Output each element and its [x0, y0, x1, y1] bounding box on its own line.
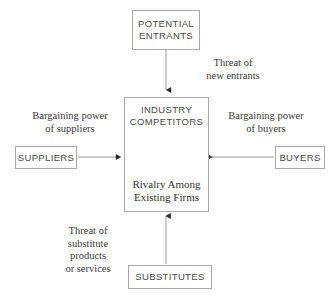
box-substitutes[interactable]: SUBSTITUTES [128, 265, 212, 289]
box-industry-competitors-heading: INDUSTRY COMPETITORS [125, 104, 208, 128]
force-label-new-entrants: Threat of new entrants [178, 57, 288, 82]
box-buyers-label: BUYERS [279, 152, 320, 164]
box-suppliers-label: SUPPLIERS [18, 152, 74, 164]
box-industry-competitors-subheading: Rivalry Among Existing Firms [125, 178, 208, 204]
porters-five-forces-diagram: POTENTIAL ENTRANTS Threat of new entrant… [0, 0, 332, 304]
force-label-substitutes-threat: Threat of substitute products or service… [50, 225, 126, 275]
box-industry-competitors[interactable]: INDUSTRY COMPETITORS Rivalry Among Exist… [124, 97, 209, 212]
box-potential-entrants[interactable]: POTENTIAL ENTRANTS [132, 10, 200, 50]
box-suppliers[interactable]: SUPPLIERS [15, 146, 77, 169]
box-potential-entrants-label: POTENTIAL ENTRANTS [138, 18, 194, 42]
force-label-suppliers-power: Bargaining power of suppliers [18, 110, 122, 135]
box-substitutes-label: SUBSTITUTES [135, 271, 204, 283]
force-label-buyers-power: Bargaining power of buyers [212, 110, 320, 135]
box-buyers[interactable]: BUYERS [275, 146, 325, 169]
